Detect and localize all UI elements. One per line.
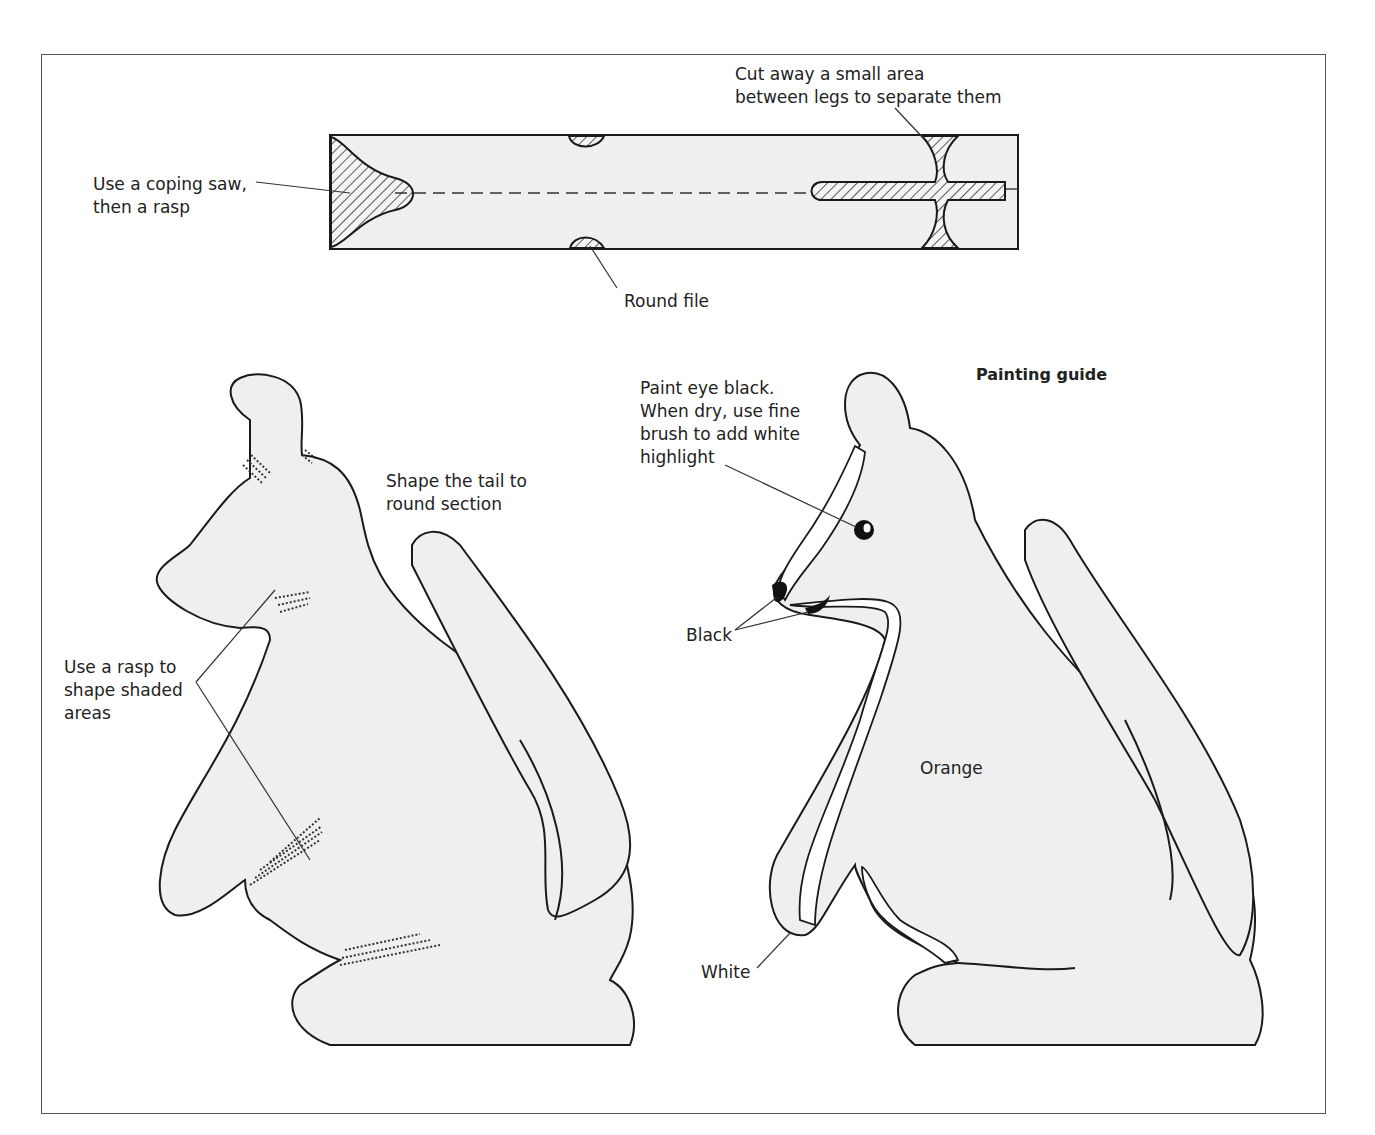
label-round-file: Round file	[624, 290, 709, 313]
label-orange: Orange	[920, 757, 983, 780]
label-shape-tail: Shape the tail to round section	[386, 470, 527, 516]
label-paint-eye: Paint eye black. When dry, use fine brus…	[640, 377, 800, 469]
painting-guide-title: Painting guide	[976, 363, 1107, 386]
painting-kangaroo	[725, 373, 1263, 1045]
label-rasp: Use a rasp to shape shaded areas	[64, 656, 183, 725]
label-white: White	[701, 961, 750, 984]
diagram-artwork	[0, 0, 1375, 1135]
label-black: Black	[686, 624, 732, 647]
wood-blank-diagram	[256, 108, 1018, 288]
eye-highlight	[864, 524, 871, 533]
label-cut-away: Cut away a small area between legs to se…	[735, 63, 1002, 109]
label-coping-saw: Use a coping saw, then a rasp	[93, 173, 247, 219]
